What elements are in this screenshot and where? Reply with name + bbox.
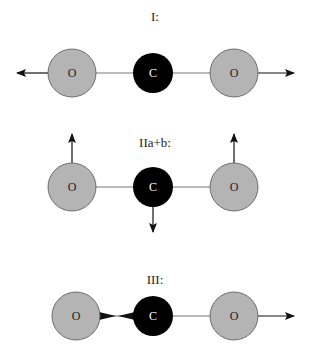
oxygen-atom-left: O bbox=[48, 163, 96, 211]
mode-I: I: O C O bbox=[17, 9, 294, 97]
oxygen-atom-right: O bbox=[210, 49, 258, 97]
svg-text:O: O bbox=[68, 180, 77, 194]
carbon-atom: C bbox=[133, 53, 173, 93]
svg-text:O: O bbox=[68, 66, 77, 80]
carbon-atom: C bbox=[133, 296, 173, 336]
oxygen-atom-right: O bbox=[210, 163, 258, 211]
mode-label: III: bbox=[147, 272, 164, 287]
mode-label: I: bbox=[151, 9, 159, 24]
oxygen-atom-right: O bbox=[210, 292, 258, 340]
svg-text:O: O bbox=[72, 309, 81, 323]
svg-text:C: C bbox=[149, 66, 157, 80]
svg-text:O: O bbox=[230, 180, 239, 194]
mode-label: IIa+b: bbox=[139, 135, 171, 150]
oxygen-atom-left: O bbox=[48, 49, 96, 97]
svg-text:C: C bbox=[149, 309, 157, 323]
carbon-atom: C bbox=[133, 167, 173, 207]
mode-III: III: O C O bbox=[52, 272, 294, 340]
svg-text:O: O bbox=[230, 309, 239, 323]
co2-vibration-diagram: I: O C O IIa+b: O C bbox=[0, 0, 310, 358]
svg-text:O: O bbox=[230, 66, 239, 80]
mode-IIa-b: IIa+b: O C O bbox=[48, 134, 258, 232]
oxygen-atom-left: O bbox=[52, 292, 100, 340]
arrowhead-left-icon bbox=[118, 312, 135, 320]
svg-text:C: C bbox=[149, 180, 157, 194]
arrowhead-right-icon bbox=[99, 312, 116, 320]
